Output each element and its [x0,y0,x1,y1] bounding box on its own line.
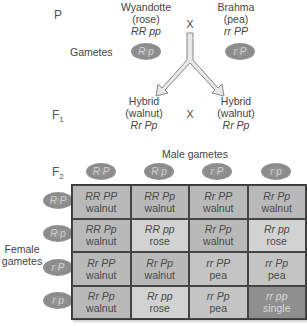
punnett-cell: Rr PPwalnut [72,252,131,286]
cell-phenotype: pea [268,269,286,281]
cell-genotype: Rr Pp [205,223,232,235]
punnett-cell: RR PPwalnut [72,185,131,219]
cell-genotype: RR pp [145,223,175,235]
f1-right-genotype: Rr Pp [206,119,266,131]
punnett-cell: RR pprose [131,219,190,253]
punnett-cell: rr PPpea [189,252,248,286]
f1-cross-symbol: X [184,108,196,120]
female-gamete-RP: R P [43,192,73,209]
female-label-line1: Female [0,243,44,255]
gametes-label: Gametes [70,46,113,58]
male-gamete-Rp: R p [144,163,174,180]
female-gamete-Rp: R p [43,225,73,242]
cell-phenotype: walnut [262,202,292,214]
male-gametes-label: Male gametes [150,148,240,160]
parent-right-phenotype: (pea) [196,13,276,25]
cell-genotype: rr PP [206,257,230,269]
f1-left-phenotype: (walnut) [114,107,174,119]
cell-genotype: Rr PP [87,257,115,269]
cell-phenotype: walnut [145,202,175,214]
cell-genotype: Rr PP [204,190,232,202]
punnett-cell: Rr Ppwalnut [248,185,307,219]
cell-phenotype: walnut [145,269,175,281]
punnett-cell: Rr Ppwalnut [131,252,190,286]
punnett-cell: RR Ppwalnut [131,185,190,219]
female-label-line2: gametes [0,255,44,267]
punnett-cell: rr Pppea [189,286,248,320]
cell-phenotype: rose [150,235,170,247]
punnett-cell: RR Ppwalnut [72,219,131,253]
parent-cross-symbol: X [184,18,196,30]
punnett-cell: Rr pprose [131,286,190,320]
cell-genotype: Rr pp [264,223,290,235]
f1-right-phenotype: (walnut) [206,107,266,119]
cell-genotype: rr Pp [265,257,288,269]
f1-right: Hybrid (walnut) Rr Pp [206,95,266,131]
p-generation-label: P [54,8,62,22]
cell-phenotype: pea [209,269,227,281]
cell-genotype: rr Pp [207,290,230,302]
cell-genotype: Rr Pp [88,290,115,302]
male-gamete-rP: r P [202,163,232,180]
cell-genotype: RR Pp [86,223,117,235]
f1-generation-label: F1 [52,108,64,124]
f2-label-sub: 2 [59,172,63,181]
f1-right-name: Hybrid [206,95,266,107]
cell-phenotype: walnut [203,235,233,247]
f1-label-sub: 1 [59,115,63,124]
parent-left-breed: Wyandotte [106,1,186,13]
cell-phenotype: rose [267,235,287,247]
cell-genotype: rr pp [266,290,288,302]
male-gamete-rp: r p [261,163,291,180]
cell-phenotype: walnut [86,235,116,247]
cross-arrow-icon [150,30,230,98]
female-gamete-rp: r p [43,292,73,309]
cell-genotype: RR PP [85,190,117,202]
cell-phenotype: walnut [86,269,116,281]
cell-genotype: Rr Pp [263,190,290,202]
f1-left-name: Hybrid [114,95,174,107]
cell-phenotype: rose [150,302,170,314]
cell-phenotype: walnut [203,202,233,214]
cell-genotype: Rr Pp [146,257,173,269]
cell-phenotype: walnut [86,202,116,214]
cell-phenotype: pea [209,302,227,314]
female-gametes-label: Female gametes [0,243,44,267]
male-gamete-RP: R P [86,163,116,180]
punnett-cell: rr Pppea [248,252,307,286]
punnett-cell: Rr pprose [248,219,307,253]
cell-genotype: Rr pp [147,290,173,302]
parent-left-phenotype: (rose) [106,13,186,25]
punnett-cell: Rr PPwalnut [189,185,248,219]
f2-generation-label: F2 [52,165,64,181]
punnett-cell: Rr Ppwalnut [189,219,248,253]
f1-left: Hybrid (walnut) Rr Pp [114,95,174,131]
cell-phenotype: walnut [86,302,116,314]
cell-phenotype: single [263,302,290,314]
female-gamete-rP: r P [43,259,73,276]
cell-genotype: RR Pp [144,190,175,202]
punnett-square: RR PPwalnut RR Ppwalnut Rr PPwalnut Rr P… [71,184,307,320]
punnett-cell: rr ppsingle [248,286,307,320]
punnett-cell: Rr Ppwalnut [72,286,131,320]
parent-right-breed: Brahma [196,1,276,13]
f1-left-genotype: Rr Pp [114,119,174,131]
